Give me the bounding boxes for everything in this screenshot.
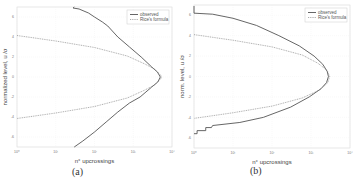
x-tick-label: 10² (92, 150, 98, 154)
series-line-observed (194, 6, 328, 134)
x-tick-label: 10¹ (230, 151, 236, 155)
x-tick-label: 10⁰ (14, 150, 20, 154)
legend-label: Rice's formula (318, 15, 347, 20)
chart-svg-a: 10⁰10¹10²10³10⁴-6-4-20246n° upcrossingsn… (0, 0, 176, 185)
y-tick-label: 0 (12, 75, 14, 79)
x-tick-label: 10¹ (53, 150, 59, 154)
x-tick-label: 10⁰ (191, 151, 197, 155)
caption-b: (b) (250, 165, 262, 176)
y-tick-label: -2 (11, 95, 14, 99)
legend-label: Rice's formula (140, 17, 169, 22)
x-tick-label: 10⁴ (347, 151, 353, 155)
y-tick-label: 2 (189, 54, 191, 58)
chart-panel-a: 10⁰10¹10²10³10⁴-6-4-20246n° upcrossingsn… (0, 0, 176, 185)
y-tick-label: 4 (189, 34, 191, 38)
y-tick-label: 6 (189, 13, 191, 17)
chart-panel-b: 10⁰10¹10²10³10⁴-6-4-20246n° upcrossingsn… (176, 0, 353, 185)
x-tick-label: 10⁴ (169, 150, 175, 154)
y-tick-label: -6 (11, 135, 14, 139)
x-tick-label: 10³ (131, 150, 137, 154)
chart-svg-b: 10⁰10¹10²10³10⁴-6-4-20246n° upcrossingsn… (176, 0, 353, 185)
x-axis-title: n° upcrossings (75, 158, 114, 164)
y-tick-label: -2 (188, 95, 191, 99)
y-axis-title: normalized level, u /σ (2, 48, 8, 105)
y-tick-label: -4 (11, 115, 14, 119)
y-tick-label: -6 (188, 136, 191, 140)
x-tick-label: 10³ (308, 151, 314, 155)
y-tick-label: 6 (12, 15, 14, 19)
y-tick-label: 2 (12, 55, 14, 59)
x-tick-label: 10² (269, 151, 275, 155)
caption-a: (a) (72, 166, 83, 177)
y-tick-label: -4 (188, 116, 191, 120)
y-axis-title: norm. level, u /σ (179, 55, 185, 98)
y-tick-label: 4 (12, 35, 14, 39)
y-tick-label: 0 (189, 75, 191, 79)
